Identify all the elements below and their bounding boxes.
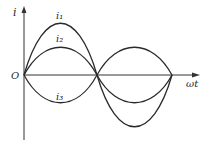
curve-i3-label: i₃: [56, 91, 63, 102]
y-axis-arrow-icon: [22, 6, 27, 13]
curve-i2-label: i₂: [56, 33, 63, 44]
current-waveform-diagram: i O ωt i₁ i₂ i₃: [0, 0, 213, 147]
y-axis-label: i: [13, 6, 17, 19]
x-axis-arrow-icon: [192, 73, 200, 78]
origin-label: O: [11, 70, 19, 81]
x-axis-label: ωt: [186, 78, 199, 89]
curve-i1-label: i₁: [56, 10, 63, 21]
